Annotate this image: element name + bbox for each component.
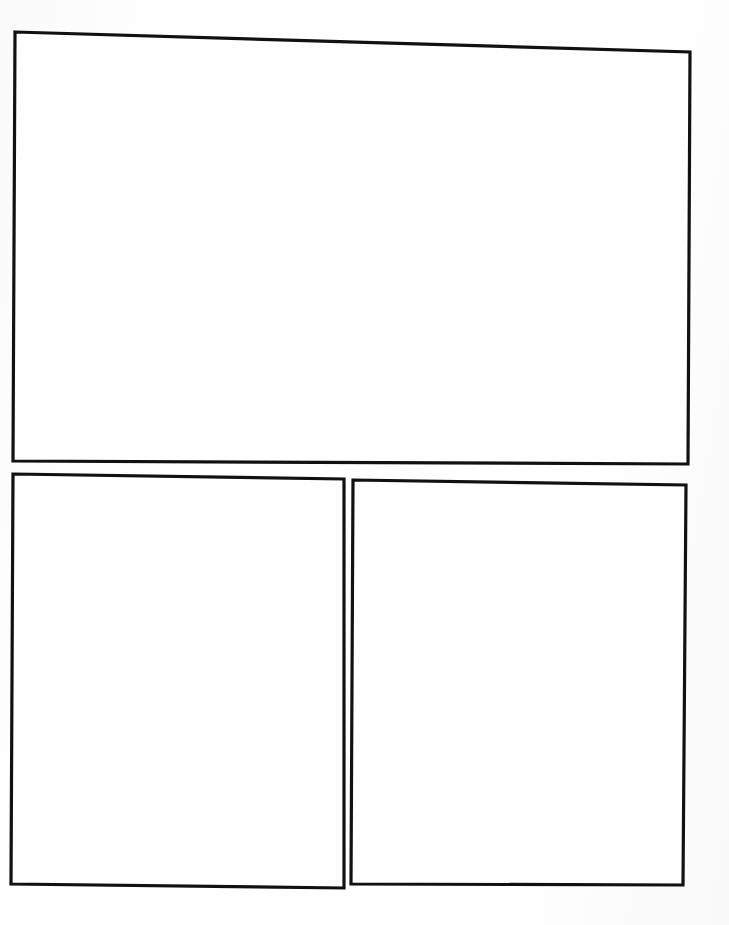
panel-3-interior[interactable] bbox=[359, 489, 679, 878]
panel-2[interactable] bbox=[11, 474, 344, 888]
panel-2-interior[interactable] bbox=[19, 483, 337, 879]
panel-3[interactable] bbox=[351, 480, 686, 885]
comic-page: Blank Comic Page Template bbox=[0, 0, 729, 925]
panel-layer bbox=[0, 0, 729, 925]
panel-1[interactable] bbox=[13, 32, 690, 464]
panel-artboard bbox=[0, 0, 729, 925]
panel-1-interior[interactable] bbox=[20, 40, 680, 455]
